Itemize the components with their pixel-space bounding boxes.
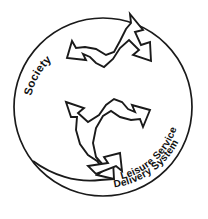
system-label-group: Leisure Service Delivery System [110,119,186,190]
diagram-svg: Society Leisure Service Delivery System [0,0,208,219]
diagram-canvas: Society Leisure Service Delivery System [0,0,208,219]
society-label: Society [22,53,54,97]
